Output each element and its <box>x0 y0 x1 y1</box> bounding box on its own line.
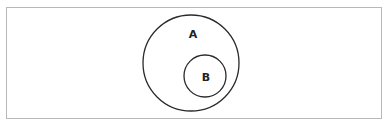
venn-diagram: A B <box>0 0 387 125</box>
diagram-frame <box>7 8 382 119</box>
set-a-label: A <box>189 28 198 41</box>
set-b-label: B <box>202 71 210 84</box>
